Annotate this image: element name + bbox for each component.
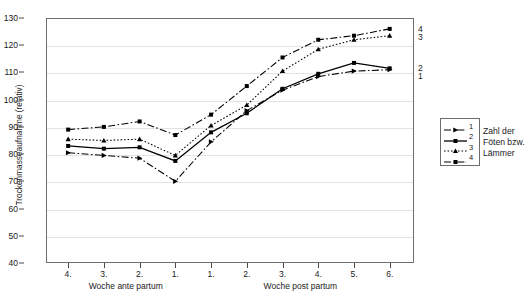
gridline xyxy=(47,210,413,211)
y-axis-tick-mark xyxy=(19,235,24,236)
legend-item-2[interactable]: 2 xyxy=(443,132,477,143)
x-axis-tick-mark xyxy=(211,263,212,268)
gridline xyxy=(47,237,413,238)
legend-item-1[interactable]: 1 xyxy=(443,121,477,132)
legend-caption-line-2: Föten bzw. xyxy=(483,137,525,148)
x-axis-tick-mark xyxy=(354,263,355,268)
x-axis-tick-mark xyxy=(104,263,105,268)
legend-key-number: 3 xyxy=(468,144,477,152)
gridline xyxy=(47,73,413,74)
y-axis-tick-mark xyxy=(19,126,24,127)
y-axis-tick-mark xyxy=(19,72,24,73)
y-axis-tick-label: 60 xyxy=(0,204,18,214)
x-axis-title-post-partum: Woche post partum xyxy=(264,281,338,291)
x-axis-tick-label: 5. xyxy=(350,269,357,279)
y-axis-tick-mark xyxy=(19,18,24,19)
x-axis-tick-mark xyxy=(283,263,284,268)
y-axis-tick-label: 80 xyxy=(0,149,18,159)
y-axis-tick-label: 100 xyxy=(0,95,18,105)
y-axis-tick-label: 110 xyxy=(0,67,18,77)
series-end-label-4: 4 xyxy=(418,24,423,34)
legend-caption-line-1: Zahl der xyxy=(483,126,525,137)
legend-box: 1234 xyxy=(440,118,480,166)
legend-caption-line-3: Lämmer xyxy=(483,148,525,159)
x-axis-tick-label: 2. xyxy=(136,269,143,279)
legend-caption: Zahl der Föten bzw. Lämmer xyxy=(483,118,525,159)
y-axis-tick-label: 70 xyxy=(0,176,18,186)
x-axis-tick-mark xyxy=(140,263,141,268)
series-end-label-2: 2 xyxy=(418,63,423,73)
y-axis-tick-mark xyxy=(19,208,24,209)
y-axis-tick-mark xyxy=(19,181,24,182)
y-axis-tick-label: 120 xyxy=(0,40,18,50)
y-axis-tick-mark xyxy=(19,263,24,264)
legend-key-1 xyxy=(443,121,468,131)
legend-key-2 xyxy=(443,132,468,142)
gridline xyxy=(47,128,413,129)
y-axis: Trockenmasseaufnahme (relativ) 405060708… xyxy=(0,0,46,301)
legend-key-4 xyxy=(443,153,468,163)
x-axis-tick-mark xyxy=(318,263,319,268)
legend: 1234 Zahl der Föten bzw. Lämmer xyxy=(440,118,525,166)
y-axis-tick-label: 40 xyxy=(0,258,18,268)
legend-key-3 xyxy=(443,142,468,152)
chart-figure: Trockenmasseaufnahme (relativ) 405060708… xyxy=(0,0,531,301)
x-axis-tick-label: 6. xyxy=(386,269,393,279)
gridline xyxy=(47,155,413,156)
legend-item-4[interactable]: 4 xyxy=(443,153,477,164)
y-axis-tick-mark xyxy=(19,154,24,155)
x-axis-tick-label: 4. xyxy=(65,269,72,279)
x-axis-tick-label: 3. xyxy=(100,269,107,279)
x-axis-tick-label: 3. xyxy=(279,269,286,279)
x-axis-tick-label: 1. xyxy=(208,269,215,279)
legend-key-number: 1 xyxy=(468,123,477,131)
gridline xyxy=(47,182,413,183)
x-axis-tick-mark xyxy=(247,263,248,268)
x-axis-tick-mark xyxy=(390,263,391,268)
y-axis-tick-label: 130 xyxy=(0,13,18,23)
legend-key-number: 4 xyxy=(468,154,477,162)
legend-item-3[interactable]: 3 xyxy=(443,142,477,153)
x-axis-tick-label: 4. xyxy=(315,269,322,279)
y-axis-tick-label: 50 xyxy=(0,231,18,241)
x-axis-title-ante-partum: Woche ante partum xyxy=(89,281,163,291)
y-axis-tick-mark xyxy=(19,99,24,100)
plot-area xyxy=(46,18,414,263)
legend-key-number: 2 xyxy=(468,133,477,141)
gridline xyxy=(47,101,413,102)
data-point-marker xyxy=(454,160,458,164)
x-axis-tick-label: 1. xyxy=(172,269,179,279)
x-axis-tick-mark xyxy=(175,263,176,268)
gridline xyxy=(47,46,413,47)
x-axis-tick-label: 2. xyxy=(243,269,250,279)
x-axis-tick-mark xyxy=(68,263,69,268)
y-axis-tick-label: 90 xyxy=(0,122,18,132)
y-axis-tick-mark xyxy=(19,45,24,46)
